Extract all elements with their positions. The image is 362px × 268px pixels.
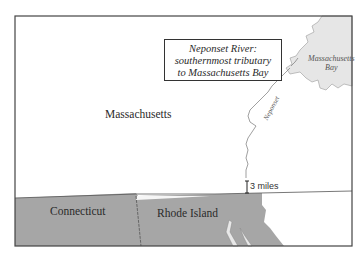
scale-bar [245, 181, 249, 193]
label-massachusetts-bay: Massachusetts Bay [308, 54, 355, 72]
label-massachusetts: Massachusetts [105, 108, 171, 120]
callout-line-2: southernmost tributary [165, 55, 281, 67]
massachusetts-bay [286, 16, 352, 90]
label-rhode-island: Rhode Island [157, 207, 218, 219]
neponset-river [246, 68, 290, 178]
southern-states-region [15, 193, 284, 246]
scale-label: 3 miles [250, 181, 279, 191]
callout-line-1: Neponset River: [165, 43, 281, 55]
callout-box: Neponset River: southernmost tributary t… [164, 39, 282, 81]
callout-line-3: to Massachusetts Bay [165, 67, 281, 79]
bay-label-line-2: Bay [308, 63, 355, 72]
label-connecticut: Connecticut [50, 205, 106, 217]
bay-label-line-1: Massachusetts [308, 54, 355, 63]
